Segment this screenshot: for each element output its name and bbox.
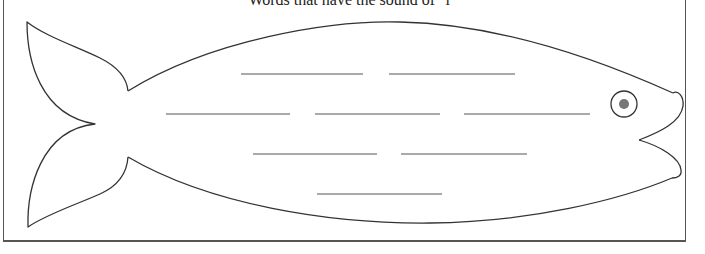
- fish-lower-lip: [639, 140, 681, 178]
- fish-body-lower: [128, 157, 672, 223]
- fish-outline-drawing: [0, 0, 705, 254]
- fish-upper-lip: [639, 92, 683, 140]
- fish-tail: [27, 22, 128, 227]
- fish-body-upper: [128, 22, 673, 93]
- fish-eye-pupil: [619, 99, 629, 109]
- blank-lines: [166, 74, 590, 194]
